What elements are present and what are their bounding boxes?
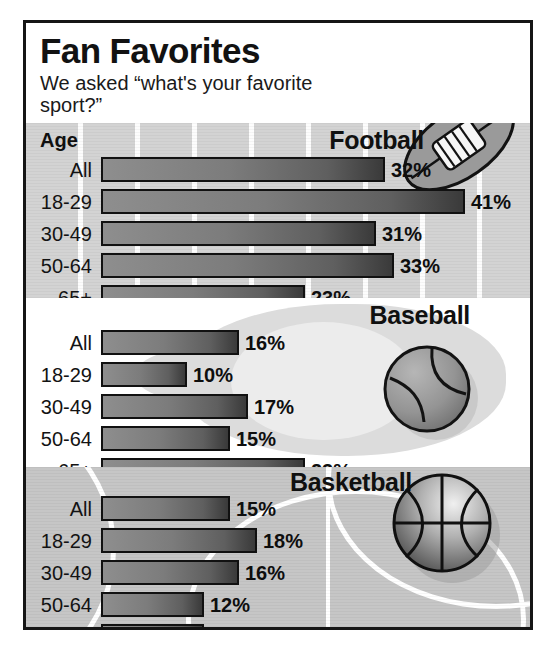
bar (101, 496, 230, 521)
bar-track: 17% (101, 393, 530, 420)
bar-value: 15% (236, 429, 276, 449)
bar-track: 12% (101, 591, 530, 618)
row-label: 50-64 (26, 256, 101, 276)
row-label: 50-64 (26, 595, 101, 615)
bar-track: 32% (101, 156, 530, 183)
chart-basketball: Basketball All 15% 18-29 18% (26, 467, 530, 627)
bar-track: 15% (101, 425, 530, 452)
bar-track: 16% (101, 329, 530, 356)
bar (101, 528, 257, 553)
age-column-header: Age (40, 129, 78, 152)
bar (101, 458, 305, 467)
bar-value: 17% (254, 397, 294, 417)
bar (101, 285, 305, 298)
page-title: Fan Favorites (40, 32, 530, 70)
table-row: 30-49 31% (26, 220, 530, 247)
bar (101, 592, 204, 617)
bar-value: 15% (236, 499, 276, 519)
row-label: All (26, 333, 101, 353)
bar-track: 12% (101, 623, 530, 627)
table-row: 50-64 15% (26, 425, 530, 452)
bar (101, 221, 376, 246)
bar (101, 624, 204, 627)
table-row: 65+ 23% (26, 284, 530, 298)
row-label: All (26, 160, 101, 180)
bar-track: 15% (101, 495, 530, 522)
bar-value: 33% (400, 256, 440, 276)
bar-rows-football: All 32% 18-29 41% 30-49 (26, 156, 530, 298)
bar (101, 157, 385, 182)
bar-value: 10% (193, 365, 233, 385)
table-row: All 16% (26, 329, 530, 356)
bar-track: 18% (101, 527, 530, 554)
sport-title-baseball: Baseball (370, 301, 470, 330)
bar (101, 426, 230, 451)
infographic-panel: Fan Favorites We asked “what's your favo… (23, 20, 533, 630)
bar-value: 41% (471, 192, 511, 212)
bar-track: 10% (101, 361, 530, 388)
row-label: 18-29 (26, 365, 101, 385)
table-row: 65+ 23% (26, 457, 530, 467)
bar-value: 16% (245, 333, 285, 353)
row-label: 18-29 (26, 531, 101, 551)
bar-value: 12% (210, 627, 250, 628)
table-row: 18-29 41% (26, 188, 530, 215)
page-subtitle: We asked “what's your favorite sport?” (40, 73, 340, 116)
row-label: 65+ (26, 627, 101, 628)
bar-rows-basketball: All 15% 18-29 18% 30-49 (26, 495, 530, 627)
header: Fan Favorites We asked “what's your favo… (26, 23, 530, 123)
table-row: 50-64 12% (26, 591, 530, 618)
table-row: 30-49 16% (26, 559, 530, 586)
row-label: 50-64 (26, 429, 101, 449)
table-row: 30-49 17% (26, 393, 530, 420)
section-basketball: Basketball All 15% 18-29 18% (26, 467, 530, 627)
row-label: All (26, 499, 101, 519)
bar (101, 253, 394, 278)
row-label: 30-49 (26, 397, 101, 417)
bar-value: 23% (311, 288, 351, 299)
row-label: 30-49 (26, 224, 101, 244)
bar-value: 12% (210, 595, 250, 615)
bar-track: 31% (101, 220, 530, 247)
bar (101, 394, 248, 419)
bar (101, 330, 239, 355)
bar-rows-baseball: All 16% 18-29 10% 30-49 (26, 329, 530, 467)
section-football: Age Football All 32% 18-29 41% (26, 123, 530, 298)
bar (101, 560, 239, 585)
sport-title-football: Football (329, 126, 424, 155)
chart-football: Age Football All 32% 18-29 41% (26, 123, 530, 298)
table-row: All 15% (26, 495, 530, 522)
table-row: 65+ 12% (26, 623, 530, 627)
bar-value: 18% (263, 531, 303, 551)
bar-track: 41% (101, 188, 530, 215)
row-label: 65+ (26, 288, 101, 299)
bar-track: 33% (101, 252, 530, 279)
bar-track: 23% (101, 284, 530, 298)
sport-title-basketball: Basketball (290, 468, 412, 497)
bar-value: 31% (382, 224, 422, 244)
table-row: All 32% (26, 156, 530, 183)
bar-value: 16% (245, 563, 285, 583)
chart-baseball: Baseball All 16% 18-29 10% (26, 298, 530, 467)
row-label: 30-49 (26, 563, 101, 583)
bar (101, 189, 465, 214)
bar (101, 362, 187, 387)
row-label: 18-29 (26, 192, 101, 212)
bar-value: 32% (391, 160, 431, 180)
table-row: 18-29 18% (26, 527, 530, 554)
section-baseball: Baseball All 16% 18-29 10% (26, 298, 530, 467)
bar-track: 23% (101, 457, 530, 467)
bar-track: 16% (101, 559, 530, 586)
table-row: 50-64 33% (26, 252, 530, 279)
table-row: 18-29 10% (26, 361, 530, 388)
